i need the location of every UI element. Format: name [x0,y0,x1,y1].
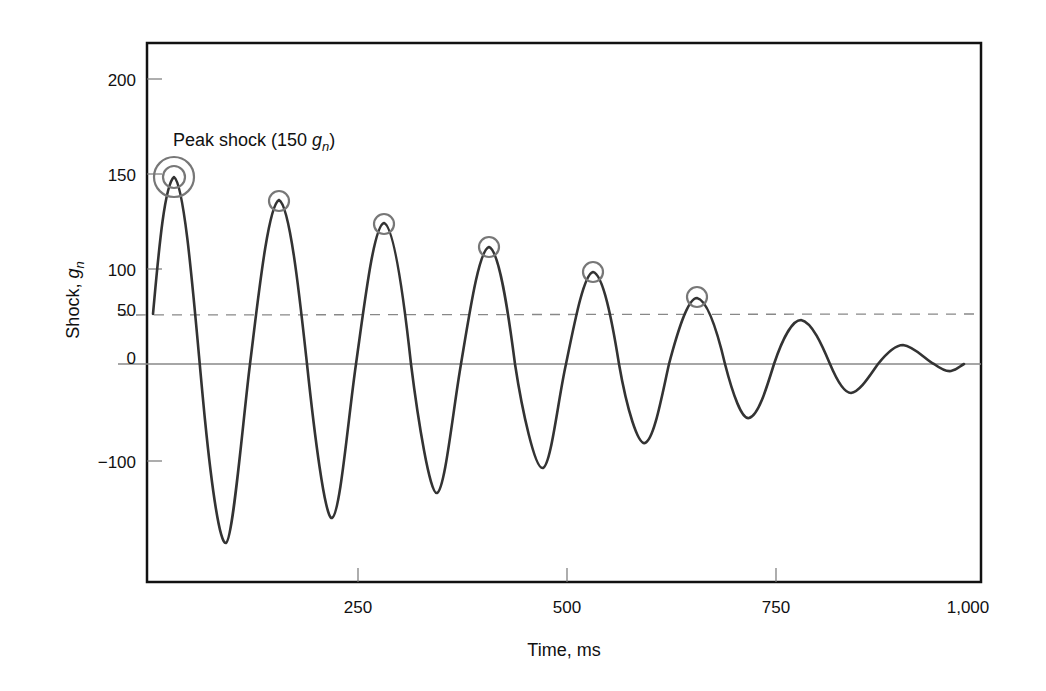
y-axis-title-main: Shock, [63,279,83,339]
peak-markers [154,157,707,307]
y-axis-ticks [147,79,162,461]
y-axis-title: Shock, gn [63,261,87,338]
y-axis-title-italic: g [63,269,83,279]
y-tick-label-100: 100 [108,261,136,280]
y-tick-label-150: 150 [108,166,136,185]
threshold-50-dashed-line [118,314,981,315]
chart-canvas: 200 150 100 50 0 −100 250 500 750 1,000 … [0,0,1046,691]
annotation-close: ) [329,130,335,150]
plot-frame [147,43,981,582]
x-axis-title: Time, ms [527,640,600,660]
peak-shock-annotation: Peak shock (150 gn) [173,130,335,154]
shock-response-curve [153,177,964,543]
annotation-subscript: n [322,139,329,154]
y-tick-label-0: 0 [127,349,136,368]
annotation-italic: g [312,130,322,150]
annotation-main: Peak shock (150 [173,130,312,150]
y-tick-label-minus-100: −100 [98,453,136,472]
x-tick-label-500: 500 [553,598,581,617]
y-tick-label-200: 200 [108,71,136,90]
x-tick-label-1000: 1,000 [947,598,990,617]
x-axis-ticks [358,568,776,582]
x-tick-label-750: 750 [762,598,790,617]
y-tick-label-50: 50 [117,301,136,320]
x-tick-label-250: 250 [344,598,372,617]
y-axis-title-subscript: n [72,261,87,268]
